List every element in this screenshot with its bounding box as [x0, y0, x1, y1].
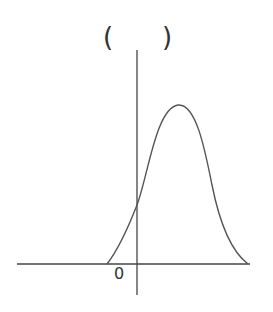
- diagram-root: ( ) 0: [0, 0, 273, 312]
- function-graph: [0, 0, 273, 312]
- bell-curve: [107, 105, 248, 264]
- origin-label: 0: [114, 266, 124, 282]
